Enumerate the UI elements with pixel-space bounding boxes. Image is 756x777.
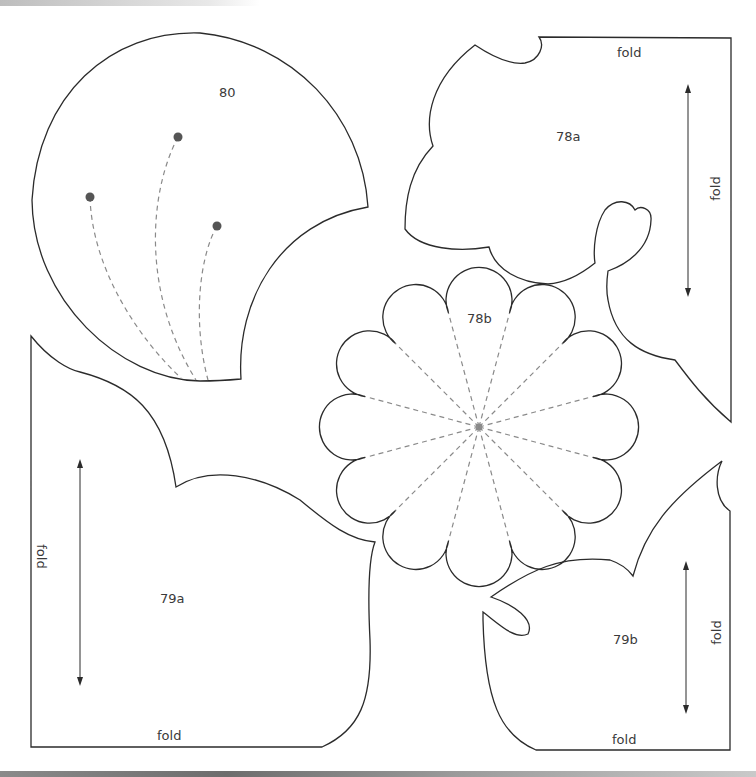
piece-79a-label: 79a xyxy=(160,592,185,605)
piece-79b-label: 79b xyxy=(613,633,638,646)
pattern-sheet: 80 78a fold fold 78b 79a fold fold 79b f… xyxy=(0,0,756,777)
piece-78b-label: 78b xyxy=(467,312,492,325)
piece-79b-fold-bottom: fold xyxy=(612,733,636,746)
pattern-drawing xyxy=(0,0,756,777)
piece-79b-fold-right: fold xyxy=(710,620,723,644)
piece-79b-shape xyxy=(483,461,730,750)
scan-edge-bottom xyxy=(0,771,756,777)
piece-78a-fold-top: fold xyxy=(617,46,641,59)
piece-80-shape xyxy=(32,33,368,381)
piece-80-label: 80 xyxy=(219,86,236,99)
piece-78a-fold-right: fold xyxy=(709,176,722,200)
piece-79a-fold-left: fold xyxy=(35,544,48,568)
piece-79a-fold-bottom: fold xyxy=(157,729,181,742)
piece-78a-label: 78a xyxy=(556,130,581,143)
piece-79a-shape xyxy=(31,336,375,747)
piece-78a-shape xyxy=(405,37,731,422)
